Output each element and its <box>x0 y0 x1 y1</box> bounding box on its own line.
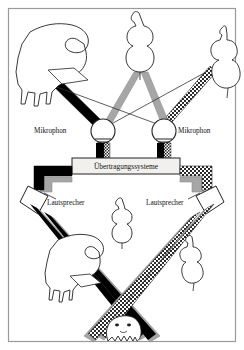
loudspeaker-left-label: Lautsprecher <box>47 199 85 207</box>
stereo-transmission-diagram: Mikrophon Mikrophon Übertragungssysteme … <box>0 0 244 350</box>
microphone-left <box>91 119 115 143</box>
microphone-right <box>152 119 176 143</box>
loudspeaker-right-label: Lautsprecher <box>146 199 184 207</box>
transmission-system-label: Übertragungssysteme <box>94 162 159 171</box>
microphone-left-label: Mikrophon <box>34 127 67 135</box>
transmission-system-box: Übertragungssysteme <box>72 158 180 174</box>
figure-canvas: Mikrophon Mikrophon Übertragungssysteme … <box>0 0 244 350</box>
microphone-right-label: Mikrophon <box>178 127 211 135</box>
